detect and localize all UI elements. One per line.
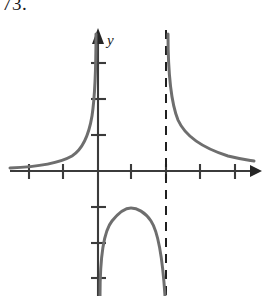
- curve-branch-left: [10, 34, 96, 168]
- curve-branch-bottom: [100, 208, 165, 296]
- graph-figure: 73. y: [0, 0, 263, 296]
- y-axis-arrow-icon: [92, 28, 104, 44]
- y-axis-label: y: [105, 32, 114, 48]
- coordinate-plot: y: [0, 0, 263, 296]
- x-axis-arrow-icon: [250, 165, 262, 177]
- curve-branch-middle-upper: [168, 34, 254, 161]
